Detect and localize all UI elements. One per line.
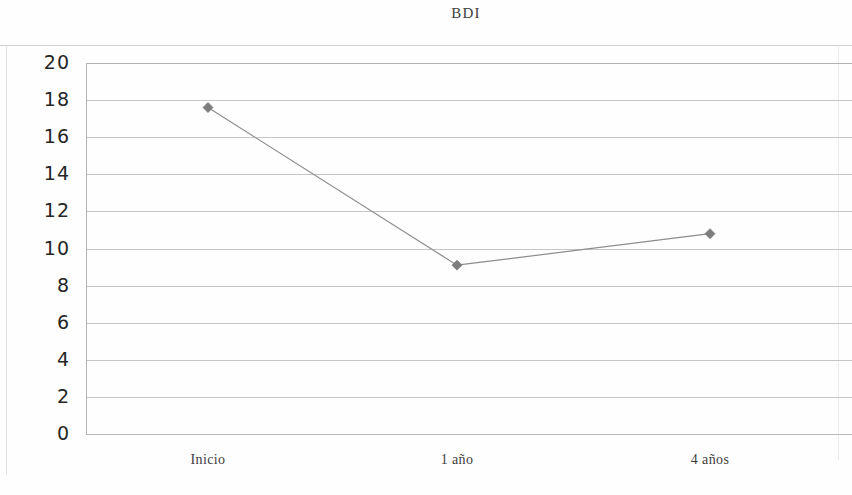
y-tick-label-6: 6 [14, 311, 70, 333]
y-tick-label-0: 0 [14, 422, 70, 444]
gridline-6 [86, 323, 852, 324]
gridline-2 [86, 397, 852, 398]
gridline-12 [86, 211, 852, 212]
gridline-18 [86, 100, 852, 101]
gridline-10 [86, 249, 852, 250]
y-tick-label-2: 2 [14, 385, 70, 407]
series-line-0 [208, 108, 710, 266]
y-tick-label-16: 16 [14, 125, 70, 147]
x-tick-label-2: 4 años [691, 452, 730, 468]
x-axis-line [86, 434, 852, 435]
x-tick-label-1: 1 año [441, 452, 474, 468]
data-point-marker-1 [452, 260, 462, 270]
y-tick-label-18: 18 [14, 88, 70, 110]
y-tick-label-14: 14 [14, 162, 70, 184]
y-tick-label-12: 12 [14, 199, 70, 221]
y-axis-line [86, 63, 87, 435]
gridline-16 [86, 137, 852, 138]
data-point-marker-0 [203, 103, 213, 113]
chart-figure: BDI 20181614121086420 Inicio1 año4 años [0, 0, 852, 495]
gridline-8 [86, 286, 852, 287]
chart-title: BDI [40, 5, 852, 22]
y-tick-label-4: 4 [14, 348, 70, 370]
data-series-layer [0, 0, 852, 495]
data-point-marker-2 [705, 229, 715, 239]
gridline-4 [86, 360, 852, 361]
scan-artifact-line-top [0, 45, 852, 46]
x-tick-label-0: Inicio [190, 452, 225, 468]
gridline-14 [86, 174, 852, 175]
y-tick-label-8: 8 [14, 274, 70, 296]
gridline-20 [86, 63, 852, 64]
y-tick-label-10: 10 [14, 237, 70, 259]
scan-artifact-line-left [6, 45, 7, 475]
y-tick-label-20: 20 [14, 51, 70, 73]
